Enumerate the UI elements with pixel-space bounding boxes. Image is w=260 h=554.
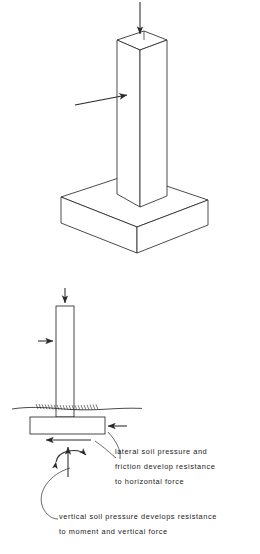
leader-lateral-upper bbox=[95, 441, 116, 458]
annotation-lateral-soil-pressure: lateral soil pressure and friction devel… bbox=[115, 448, 215, 493]
annotation-lateral-line-1: lateral soil pressure and bbox=[115, 448, 215, 455]
annotation-lateral-line-3: to horizontal force bbox=[115, 478, 215, 485]
figure-page: lateral soil pressure and friction devel… bbox=[0, 0, 260, 554]
section-column bbox=[56, 306, 74, 417]
moment-arc-arrow bbox=[56, 451, 86, 462]
annotation-vertical-soil-pressure: vertical soil pressure develops resistan… bbox=[59, 513, 217, 543]
section-footing bbox=[30, 417, 105, 434]
annotation-vertical-line-1: vertical soil pressure develops resistan… bbox=[59, 513, 217, 520]
annotation-vertical-line-2: to moment and vertical force bbox=[59, 528, 217, 535]
annotation-lateral-line-2: friction develop resistance bbox=[115, 463, 215, 470]
upper-isometric-view bbox=[61, 2, 208, 253]
column-solid bbox=[117, 31, 167, 207]
